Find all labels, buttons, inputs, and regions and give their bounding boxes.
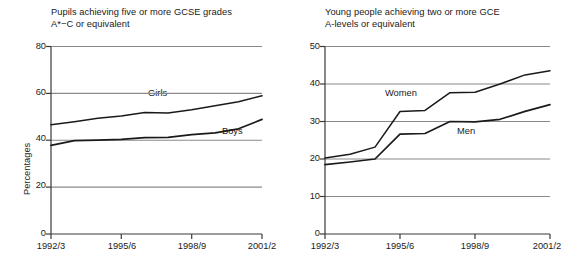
- alevels-ytick-30: 30: [282, 116, 320, 126]
- alevels-chart-panel: Young people achieving two or more GCE A…: [290, 0, 577, 265]
- gcse-x-tickmarks: [51, 234, 262, 239]
- alevels-ytick-10: 10: [282, 191, 320, 201]
- gcse-chart-panel: Pupils achieving five or more GCSE grade…: [0, 0, 290, 265]
- alevels-xtick-1998-9: 1998/9: [445, 241, 505, 251]
- alevels-ytick-0: 0: [282, 228, 320, 238]
- alevels-xtick-1995-6: 1995/6: [370, 241, 430, 251]
- alevels-series-label-women: Women: [385, 88, 417, 98]
- alevels-ytick-20: 20: [282, 153, 320, 163]
- gcse-y-tickmarks: [46, 47, 51, 235]
- gcse-series-boys: [51, 119, 262, 145]
- alevels-xtick-1992-3: 1992/3: [295, 241, 355, 251]
- alevels-y-tickmarks: [320, 47, 325, 235]
- alevels-xtick-2001-2: 2001/2: [517, 241, 577, 251]
- gcse-series-girls: [51, 96, 262, 125]
- alevels-ytick-40: 40: [282, 78, 320, 88]
- alevels-plot-area: [290, 0, 577, 265]
- gcse-plot-area: [0, 0, 290, 265]
- gcse-gridlines: [51, 47, 262, 188]
- alevels-series-label-men: Men: [457, 126, 475, 136]
- alevels-x-tickmarks: [325, 234, 550, 239]
- chart-page: Pupils achieving five or more GCSE grade…: [0, 0, 577, 265]
- alevels-series-men: [325, 105, 550, 165]
- alevels-ytick-50: 50: [282, 41, 320, 51]
- alevels-gridlines: [325, 47, 550, 197]
